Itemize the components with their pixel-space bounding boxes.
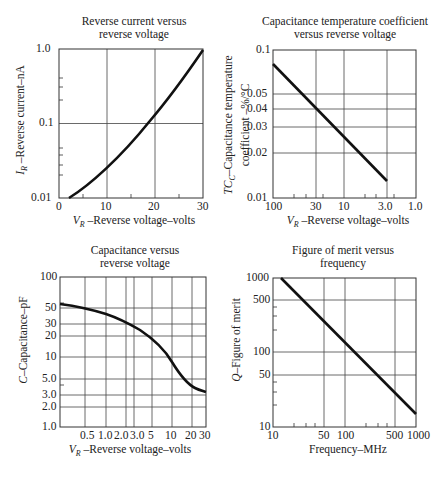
y-tick: 50 bbox=[259, 368, 271, 380]
y-tick: 1000 bbox=[246, 271, 269, 283]
x-tick: 1000 bbox=[407, 429, 430, 441]
chart-figure-of-merit: Figure of merit versus frequency 1000 50… bbox=[0, 0, 441, 477]
y-axis-label: Q–Figure of merit bbox=[230, 280, 242, 400]
x-axis-label: Frequency–MHz bbox=[273, 443, 423, 455]
x-tick: 10 bbox=[267, 429, 279, 441]
x-tick: 500 bbox=[386, 429, 403, 441]
plot-area bbox=[0, 0, 441, 477]
y-tick: 500 bbox=[253, 293, 270, 305]
x-tick: 100 bbox=[337, 429, 354, 441]
x-tick: 50 bbox=[318, 429, 330, 441]
y-tick: 100 bbox=[253, 345, 270, 357]
